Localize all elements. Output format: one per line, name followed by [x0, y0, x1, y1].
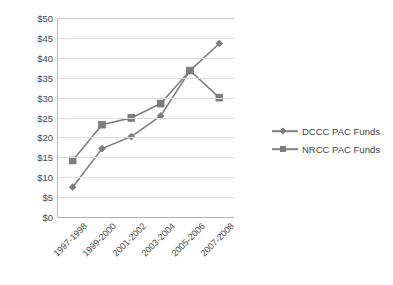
- series-line-nrcc: [73, 71, 220, 161]
- legend-marker-square-icon: [272, 144, 298, 154]
- gridline: [58, 58, 234, 59]
- data-point-marker: [99, 121, 106, 128]
- y-axis-tick-label: $45: [37, 32, 53, 43]
- series-line-dccc: [73, 43, 220, 187]
- chart-legend: DCCC PAC Funds NRCC PAC Funds: [272, 122, 380, 158]
- legend-label-nrcc: NRCC PAC Funds: [302, 144, 380, 155]
- gridline: [58, 118, 234, 119]
- y-axis-tick-label: $50: [37, 13, 53, 24]
- plot-area: $0$5$10$15$20$25$30$35$40$45$501997-1998…: [57, 18, 234, 217]
- data-point-marker: [187, 67, 194, 74]
- legend-item-nrcc[interactable]: NRCC PAC Funds: [272, 140, 380, 158]
- y-axis-tick-label: $25: [37, 112, 53, 123]
- data-point-marker: [157, 100, 164, 107]
- y-axis-tick-label: $10: [37, 172, 53, 183]
- y-axis-tick-label: $15: [37, 152, 53, 163]
- gridline: [58, 78, 234, 79]
- gridline: [58, 217, 234, 218]
- gridline: [58, 157, 234, 158]
- line-chart: Millions of $ $0$5$10$15$20$25$30$35$40$…: [0, 0, 393, 285]
- y-axis-tick-label: $0: [42, 212, 53, 223]
- y-axis-tick-label: $20: [37, 132, 53, 143]
- legend-label-dccc: DCCC PAC Funds: [302, 126, 380, 137]
- gridline: [58, 38, 234, 39]
- y-axis-tick-label: $30: [37, 92, 53, 103]
- gridline: [58, 197, 234, 198]
- legend-marker-diamond-icon: [272, 126, 298, 136]
- gridline: [58, 137, 234, 138]
- y-axis-tick-label: $35: [37, 72, 53, 83]
- y-axis-tick-label: $5: [42, 192, 53, 203]
- gridline: [58, 177, 234, 178]
- gridline: [58, 18, 234, 19]
- y-axis-tick-label: $40: [37, 52, 53, 63]
- gridline: [58, 98, 234, 99]
- legend-item-dccc[interactable]: DCCC PAC Funds: [272, 122, 380, 140]
